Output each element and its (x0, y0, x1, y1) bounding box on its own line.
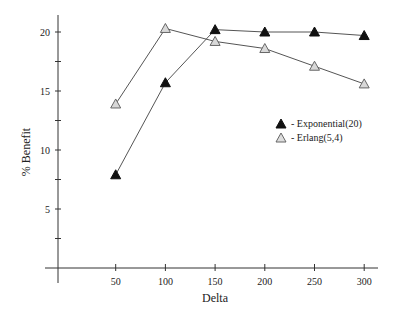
y-tick-label: 10 (40, 145, 50, 156)
series-line (116, 30, 365, 175)
hollow-triangle-marker (359, 79, 369, 88)
filled-triangle-marker (111, 170, 121, 179)
y-tick-label: 5 (45, 204, 50, 215)
plot-area (111, 23, 370, 178)
legend: - Exponential(20) - Erlang(5,4) (276, 118, 362, 144)
line-chart: 5101520 50100150200250300 % Benefit Delt… (0, 0, 410, 316)
x-tick-label: 300 (357, 276, 372, 287)
x-axis: 50100150200250300 (45, 264, 378, 287)
filled-triangle-marker (210, 25, 220, 34)
y-tick-label: 20 (40, 27, 50, 38)
x-tick-label: 50 (111, 276, 121, 287)
x-tick-label: 100 (158, 276, 173, 287)
hollow-triangle-marker (160, 23, 170, 32)
y-axis: 5101520 (40, 15, 61, 283)
legend-item-erlang: - Erlang(5,4) (276, 132, 343, 144)
x-axis-title: Delta (202, 291, 229, 305)
hollow-triangle-marker (310, 61, 320, 70)
legend-item-exponential: - Exponential(20) (276, 118, 362, 130)
legend-label: - Erlang(5,4) (291, 132, 343, 144)
series-line (116, 28, 365, 104)
filled-triangle-icon (276, 119, 286, 128)
hollow-triangle-marker (111, 99, 121, 108)
x-tick-label: 250 (307, 276, 322, 287)
legend-label: - Exponential(20) (291, 118, 362, 130)
x-tick-label: 200 (257, 276, 272, 287)
y-axis-title: % Benefit (19, 127, 33, 176)
x-tick-label: 150 (208, 276, 223, 287)
y-tick-label: 15 (40, 86, 50, 97)
hollow-triangle-icon (276, 133, 286, 142)
